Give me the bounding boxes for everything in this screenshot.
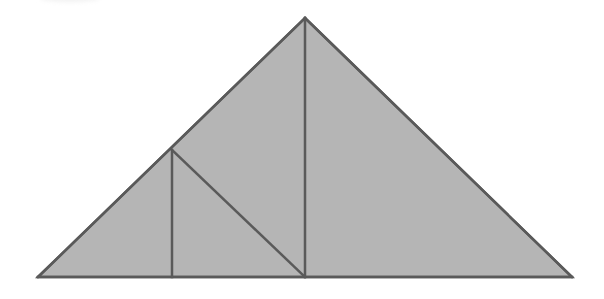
triangle-diagram [0,0,604,299]
